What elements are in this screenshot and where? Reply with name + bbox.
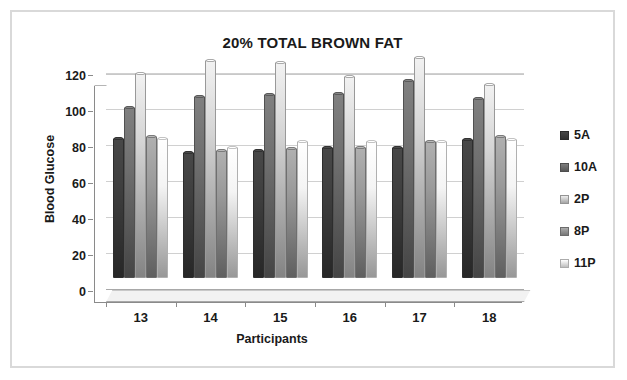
bar-group-13	[113, 62, 168, 278]
bar-cap	[437, 140, 446, 143]
bar-cap	[206, 59, 215, 62]
x-tick-label-14: 14	[191, 310, 231, 325]
bar-cap	[114, 137, 123, 140]
x-tick-mark-15	[245, 302, 246, 307]
bar-cap	[136, 72, 145, 75]
bar-2P-17[interactable]	[414, 57, 425, 278]
x-axis-title: Participants	[12, 332, 532, 346]
legend-swatch-10A	[560, 163, 569, 172]
bar-cap	[323, 146, 332, 149]
legend-item-10A[interactable]: 10A	[560, 152, 627, 182]
legend-label-5A: 5A	[574, 128, 590, 142]
y-tick-label-80: 80	[46, 142, 86, 155]
bar-cap	[345, 75, 354, 78]
bar-11P-13[interactable]	[157, 138, 168, 278]
legend-item-11P[interactable]: 11P	[560, 248, 627, 278]
bar-2P-15[interactable]	[275, 62, 286, 278]
bar-cap	[158, 137, 167, 140]
x-tick-label-18: 18	[469, 310, 509, 325]
bar-5A-14[interactable]	[183, 152, 194, 278]
bar-11P-14[interactable]	[227, 147, 238, 278]
x-tick-mark-16	[315, 302, 316, 307]
bar-8P-16[interactable]	[355, 147, 366, 278]
plot-area	[94, 74, 534, 304]
y-tick-label-40: 40	[46, 214, 86, 227]
y-tick-label-120: 120	[46, 70, 86, 83]
bar-cap	[404, 79, 413, 82]
bar-group-17	[392, 62, 447, 278]
y-tick-mark-80	[88, 147, 93, 148]
bar-10A-14[interactable]	[194, 96, 205, 278]
legend-item-5A[interactable]: 5A	[560, 120, 627, 150]
x-tick-mark-18	[454, 302, 455, 307]
bar-cap	[217, 149, 226, 152]
bar-cap	[195, 95, 204, 98]
bar-cap	[356, 146, 365, 149]
bar-cap	[485, 83, 494, 86]
bar-11P-15[interactable]	[297, 141, 308, 278]
y-tick-label-0: 0	[46, 286, 86, 299]
bar-group-18	[462, 62, 517, 278]
y-axis-line	[94, 86, 95, 302]
bar-11P-16[interactable]	[366, 141, 377, 278]
chart-legend: 5A10A2P8P11P	[560, 120, 627, 280]
legend-swatch-11P	[560, 259, 569, 268]
bar-5A-18[interactable]	[462, 139, 473, 278]
bar-group-16	[322, 62, 377, 278]
bar-10A-15[interactable]	[264, 94, 275, 278]
x-tick-mark-17	[385, 302, 386, 307]
bar-5A-15[interactable]	[253, 150, 264, 278]
bar-2P-13[interactable]	[135, 73, 146, 278]
y-tick-mark-60	[88, 183, 93, 184]
y-tick-label-20: 20	[46, 250, 86, 263]
bar-10A-18[interactable]	[473, 98, 484, 278]
x-tick-label-16: 16	[330, 310, 370, 325]
plot-inner	[106, 74, 524, 290]
bar-10A-17[interactable]	[403, 80, 414, 278]
chart-title: 20% TOTAL BROWN FAT	[12, 34, 613, 51]
bar-group-15	[253, 62, 308, 278]
bar-cap	[415, 56, 424, 59]
legend-label-10A: 10A	[574, 160, 597, 174]
legend-swatch-5A	[560, 131, 569, 140]
bar-cap	[463, 138, 472, 141]
bar-8P-14[interactable]	[216, 150, 227, 278]
y-tick-mark-0	[88, 291, 93, 292]
bar-cap	[125, 106, 134, 109]
bar-cap	[184, 151, 193, 154]
bar-11P-18[interactable]	[506, 139, 517, 278]
bar-cap	[287, 147, 296, 150]
bar-10A-16[interactable]	[333, 93, 344, 278]
legend-item-2P[interactable]: 2P	[560, 184, 627, 214]
bar-cap	[265, 93, 274, 96]
bar-8P-15[interactable]	[286, 148, 297, 278]
bar-5A-17[interactable]	[392, 147, 403, 278]
bar-10A-13[interactable]	[124, 107, 135, 278]
x-axis-line	[94, 302, 522, 303]
x-tick-label-13: 13	[121, 310, 161, 325]
chart-frame: 20% TOTAL BROWN FAT Blood Glucose 020406…	[10, 10, 615, 368]
bar-11P-17[interactable]	[436, 141, 447, 278]
y-tick-mark-100	[88, 111, 93, 112]
plot-floor	[106, 290, 530, 302]
legend-label-2P: 2P	[574, 192, 589, 206]
bar-cap	[228, 146, 237, 149]
bar-cap	[393, 146, 402, 149]
y-axis-tick-labels: 020406080100120	[40, 74, 86, 304]
legend-swatch-8P	[560, 227, 569, 236]
bar-group-14	[183, 62, 238, 278]
legend-item-8P[interactable]: 8P	[560, 216, 627, 246]
bar-5A-16[interactable]	[322, 147, 333, 278]
bar-2P-14[interactable]	[205, 60, 216, 278]
y-tick-mark-20	[88, 255, 93, 256]
bar-cap	[276, 61, 285, 64]
bar-8P-13[interactable]	[146, 136, 157, 278]
bar-2P-18[interactable]	[484, 84, 495, 278]
x-tick-mark-13	[106, 302, 107, 307]
bar-8P-18[interactable]	[495, 136, 506, 278]
bar-cap	[507, 138, 516, 141]
bar-cap	[367, 140, 376, 143]
bar-5A-13[interactable]	[113, 138, 124, 278]
bar-8P-17[interactable]	[425, 141, 436, 278]
bar-2P-16[interactable]	[344, 76, 355, 278]
